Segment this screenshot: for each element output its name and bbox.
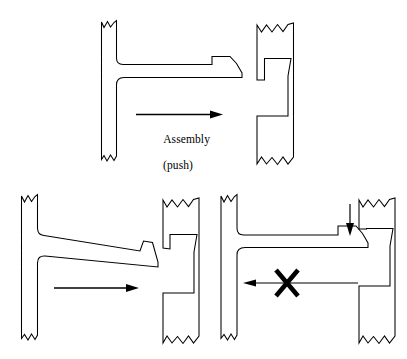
assembly-caption-line1: Assembly: [163, 133, 210, 145]
separation-geometry: [200, 178, 407, 359]
assembly-panel: Assembly (push): [0, 0, 407, 180]
separation-panel: Internal access required for separation: [200, 178, 407, 359]
mating-part: [359, 198, 395, 344]
deflection-panel: Deflection (due to push): [0, 178, 210, 359]
deflected-snap-hook-part: [22, 195, 159, 341]
deflection-arrow: [54, 284, 139, 292]
assembly-caption-line2: (push): [130, 159, 226, 172]
mating-part: [257, 23, 294, 165]
separation-blocked-arrow: [243, 280, 358, 287]
assembly-arrow: [136, 111, 223, 119]
mating-part: [163, 198, 199, 344]
deflection-geometry: [0, 178, 210, 359]
figure-root: Assembly (push) Deflection (due to push): [0, 0, 407, 359]
engaged-snap-hook-part: [221, 195, 368, 341]
